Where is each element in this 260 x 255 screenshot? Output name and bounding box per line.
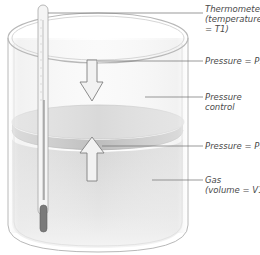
pressure-bottom-label: Pressure = P1 xyxy=(205,141,260,151)
cylinder-illustration xyxy=(0,0,260,255)
gas-cylinder-diagram: Thermometer (temperature = T1) Pressure … xyxy=(0,0,260,255)
thermometer xyxy=(38,5,48,232)
thermometer-label: Thermometer (temperature = T1) xyxy=(205,4,260,34)
glass-cylinder xyxy=(8,13,188,252)
gas-label: Gas (volume = V1) xyxy=(205,175,260,195)
pressure-control-label: Pressure control xyxy=(205,92,242,112)
pressure-top-label: Pressure = P1 xyxy=(205,56,260,66)
